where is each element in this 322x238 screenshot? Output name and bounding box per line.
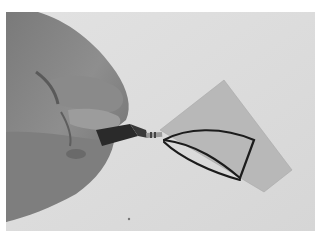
image-frame [0, 0, 322, 238]
paper-speck [128, 218, 130, 220]
photograph [6, 12, 315, 231]
